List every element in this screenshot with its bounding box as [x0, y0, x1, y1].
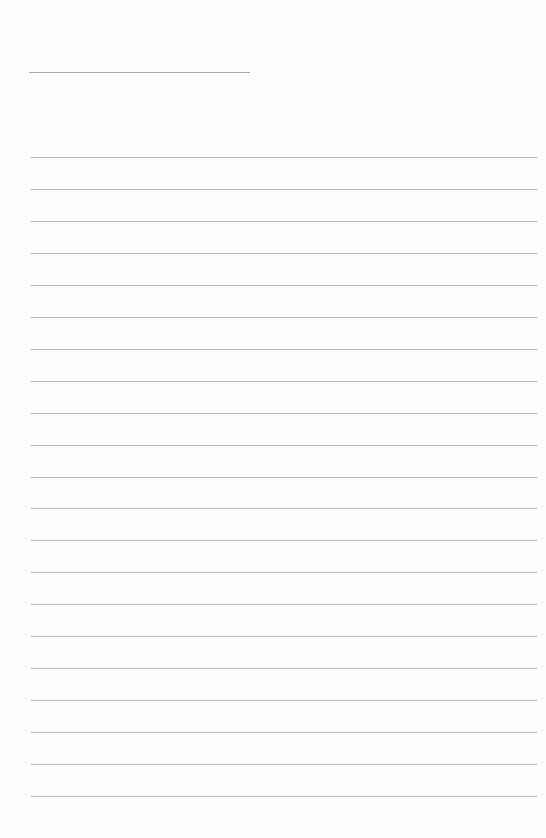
- ruled-line: [31, 636, 537, 637]
- ruled-line: [31, 317, 537, 318]
- ruled-line: [31, 508, 537, 509]
- ruled-line: [31, 285, 537, 286]
- ruled-line: [31, 700, 537, 701]
- ruled-line: [31, 604, 537, 605]
- ruled-line: [31, 189, 537, 190]
- ruled-line: [31, 157, 537, 158]
- ruled-line: [31, 796, 537, 797]
- ruled-line: [31, 764, 537, 765]
- ruled-line: [31, 572, 537, 573]
- ruled-line: [31, 732, 537, 733]
- lined-paper-page: [0, 0, 546, 838]
- ruled-line: [31, 413, 537, 414]
- ruled-line: [31, 668, 537, 669]
- ruled-line: [31, 349, 537, 350]
- ruled-line: [31, 221, 537, 222]
- ruled-line: [31, 540, 537, 541]
- ruled-line: [31, 381, 537, 382]
- ruled-line: [31, 253, 537, 254]
- header-line: [29, 72, 250, 73]
- ruled-line: [31, 477, 537, 478]
- ruled-line: [31, 445, 537, 446]
